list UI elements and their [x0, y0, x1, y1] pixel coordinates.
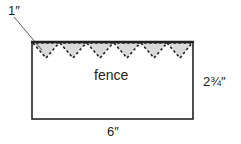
pennants: [33, 43, 192, 58]
pennant-size-label: 1″: [8, 4, 20, 17]
pennant-triangle: [60, 43, 86, 58]
width-label: 6″: [107, 125, 119, 138]
pennant-leader-line: [14, 17, 42, 50]
pennant-triangle: [167, 43, 192, 58]
pennant-triangle: [87, 43, 113, 58]
fence-label: fence: [94, 68, 128, 82]
pennant-triangle: [114, 43, 140, 58]
height-label: 2¾″: [203, 75, 226, 88]
pennant-triangle: [33, 43, 59, 58]
pennant-triangle: [141, 43, 167, 58]
